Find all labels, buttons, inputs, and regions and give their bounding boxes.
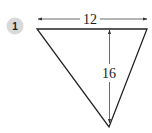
- height-label: 16: [102, 66, 116, 81]
- triangle-diagram: 1 12 16: [0, 0, 152, 133]
- triangle-shape: [37, 29, 147, 127]
- base-dimension: 12: [38, 12, 147, 27]
- problem-number: 1: [12, 21, 18, 32]
- height-dimension: 16: [102, 30, 116, 123]
- problem-number-badge: 1: [7, 18, 24, 35]
- base-label: 12: [83, 12, 97, 27]
